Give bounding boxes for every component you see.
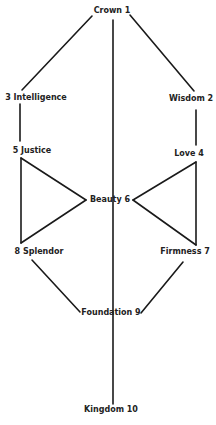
edge-1-2: [130, 15, 194, 91]
node-firmness: Firmness 7: [160, 247, 209, 257]
edge-4-6: [133, 162, 196, 200]
node-foundation: Foundation 9: [81, 308, 140, 318]
node-crown: Crown 1: [94, 6, 131, 16]
node-splendor: 8 Splendor: [15, 247, 64, 257]
edge-6-8: [21, 200, 86, 243]
edge-8-9: [32, 260, 80, 312]
node-love: Love 4: [174, 149, 204, 159]
node-intelligence: 3 Intelligence: [5, 93, 67, 103]
node-beauty: Beauty 6: [90, 195, 130, 205]
diagram-edges: [0, 0, 216, 425]
node-kingdom: Kingdom 10: [84, 405, 138, 415]
node-justice: 5 Justice: [13, 146, 52, 156]
edge-7-9: [141, 262, 183, 313]
node-wisdom: Wisdom 2: [169, 94, 213, 104]
edge-6-7: [133, 200, 196, 245]
tree-of-life-diagram: Crown 1 Wisdom 2 3 Intelligence Love 4 5…: [0, 0, 216, 425]
edge-1-3: [22, 16, 92, 90]
edge-5-6: [21, 158, 86, 200]
